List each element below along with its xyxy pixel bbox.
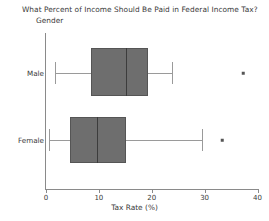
whisker-low-cap	[49, 129, 50, 151]
x-tick-mark	[46, 189, 47, 193]
whisker-high-line	[148, 73, 172, 74]
median-line-female	[97, 117, 98, 163]
x-axis-label: Tax Rate (%)	[0, 203, 269, 212]
chart-title: What Percent of Income Should Be Paid in…	[22, 5, 258, 14]
whisker-high-line	[126, 140, 202, 141]
outlier-point	[221, 139, 224, 142]
category-label-male: Male	[27, 69, 44, 78]
box-male	[91, 48, 148, 96]
median-line-male	[126, 48, 127, 96]
whisker-high-cap	[202, 129, 203, 151]
y-axis-line	[45, 33, 46, 189]
whisker-low-line	[49, 140, 70, 141]
whisker-low-line	[55, 73, 91, 74]
x-tick-label: 20	[147, 194, 156, 202]
whisker-low-cap	[55, 62, 56, 84]
whisker-high-cap	[172, 62, 173, 84]
category-label-female: Female	[18, 136, 44, 145]
box-plot-chart: What Percent of Income Should Be Paid in…	[0, 0, 269, 221]
outlier-point	[242, 72, 245, 75]
x-tick-label: 30	[200, 194, 209, 202]
x-tick-label: 10	[94, 194, 103, 202]
x-tick-mark	[99, 189, 100, 193]
x-tick-label: 0	[44, 194, 48, 202]
x-tick-label: 40	[253, 194, 262, 202]
y-axis-label: Gender	[36, 16, 63, 25]
x-tick-mark	[152, 189, 153, 193]
x-tick-mark	[205, 189, 206, 193]
x-tick-mark	[258, 189, 259, 193]
